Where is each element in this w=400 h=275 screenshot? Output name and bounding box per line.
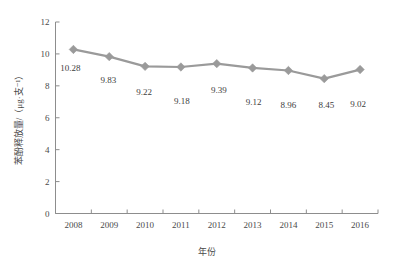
x-tick-label: 2013 <box>244 220 263 230</box>
line-chart: 024681012 200820092010201120122013201420… <box>0 0 400 275</box>
y-tick-label: 8 <box>45 81 50 91</box>
x-tick-label: 2015 <box>315 220 334 230</box>
y-tick-label: 4 <box>45 145 50 155</box>
y-axis: 024681012 <box>41 17 60 219</box>
data-point-label: 9.39 <box>211 85 227 95</box>
x-axis-title: 年份 <box>198 246 216 257</box>
data-point-labels: 10.289.839.229.189.399.128.968.459.02 <box>60 63 366 109</box>
x-tick-label: 2016 <box>351 220 370 230</box>
y-tick-label: 6 <box>45 113 50 123</box>
y-tick-label: 2 <box>45 177 50 187</box>
data-point-marker <box>284 66 292 74</box>
data-point-marker <box>177 63 185 71</box>
x-tick-group: 200820092010201120122013201420152016 <box>56 210 379 230</box>
data-point-label: 9.02 <box>350 99 366 109</box>
data-point-marker <box>356 65 364 73</box>
y-tick-label: 0 <box>45 209 50 219</box>
chart-figure: 024681012 200820092010201120122013201420… <box>0 0 400 275</box>
data-point-marker <box>69 45 77 53</box>
y-tick-group: 024681012 <box>41 17 60 219</box>
x-tick-label: 2011 <box>172 220 190 230</box>
y-tick-label: 12 <box>41 17 50 27</box>
y-tick-label: 10 <box>41 49 51 59</box>
data-point-label: 10.28 <box>60 63 81 73</box>
data-point-marker <box>320 74 328 82</box>
data-point-label: 8.96 <box>281 100 297 110</box>
x-axis: 200820092010201120122013201420152016 <box>56 210 379 230</box>
data-point-label: 9.18 <box>174 96 190 106</box>
data-point-marker <box>248 64 256 72</box>
data-point-label: 9.22 <box>136 87 152 97</box>
data-point-label: 9.12 <box>246 97 262 107</box>
data-point-marker <box>141 62 149 70</box>
data-point-label: 8.45 <box>318 100 334 110</box>
x-tick-label: 2008 <box>64 220 83 230</box>
x-tick-label: 2009 <box>100 220 119 230</box>
y-axis-title: 苯酚释放量/（μg·支⁻¹） <box>13 71 24 165</box>
x-tick-label: 2010 <box>136 220 155 230</box>
data-point-marker <box>105 52 113 60</box>
x-tick-label: 2014 <box>279 220 298 230</box>
data-point-label: 9.83 <box>100 75 116 85</box>
x-tick-label: 2012 <box>208 220 226 230</box>
data-point-marker <box>213 59 221 67</box>
